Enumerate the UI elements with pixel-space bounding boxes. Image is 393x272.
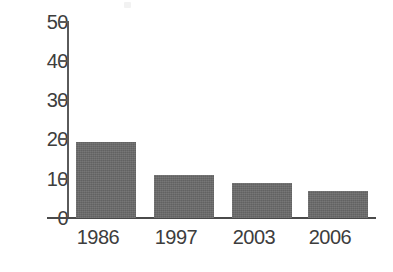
scan-artifact bbox=[124, 2, 131, 8]
bar-2003 bbox=[232, 183, 292, 218]
bar-1997 bbox=[154, 175, 214, 218]
plot-area bbox=[68, 22, 376, 218]
x-tick-label-1986: 1986 bbox=[66, 226, 130, 248]
bar-2006 bbox=[308, 191, 368, 218]
x-tick-label-2006: 2006 bbox=[298, 226, 362, 248]
bar-1986 bbox=[76, 142, 136, 218]
x-tick-label-2003: 2003 bbox=[222, 226, 286, 248]
x-tick-label-1997: 1997 bbox=[144, 226, 208, 248]
bar-chart: 50 40 30 20 10 0 1986 1997 2003 2006 bbox=[0, 0, 393, 272]
